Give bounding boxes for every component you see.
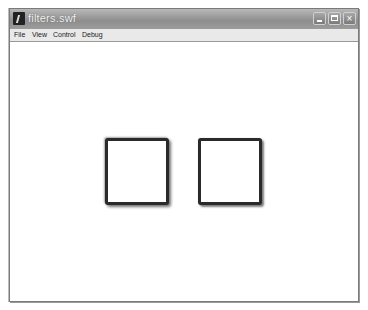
left-square <box>105 138 169 205</box>
menu-control[interactable]: Control <box>53 31 76 38</box>
flash-player-window: filters.swf × File View Control Debug <box>9 8 359 302</box>
menu-view[interactable]: View <box>32 31 47 38</box>
flash-player-icon[interactable] <box>13 12 25 25</box>
maximize-button[interactable] <box>328 12 341 25</box>
menu-bar: File View Control Debug <box>10 29 358 42</box>
title-bar[interactable]: filters.swf × <box>10 9 358 29</box>
swf-stage[interactable] <box>11 43 357 300</box>
close-button[interactable]: × <box>343 12 356 25</box>
menu-debug[interactable]: Debug <box>82 31 103 38</box>
menu-file[interactable]: File <box>14 31 25 38</box>
window-title: filters.swf <box>28 12 76 24</box>
minimize-button[interactable] <box>313 12 326 25</box>
right-square <box>198 138 262 205</box>
